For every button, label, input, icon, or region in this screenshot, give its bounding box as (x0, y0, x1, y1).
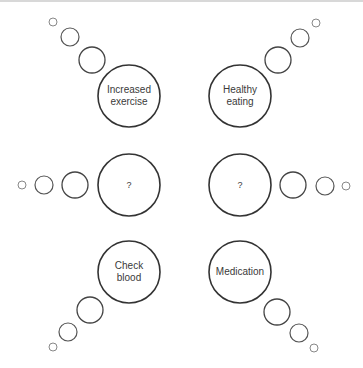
trail-bubble-large (280, 172, 306, 198)
trail-bubble-large (77, 297, 103, 323)
trail-bubble-medium (291, 29, 309, 47)
label-line-2: exercise (98, 96, 160, 108)
bubble-label-healthy-eating: Healthy eating (209, 84, 271, 108)
label-line-1: ? (98, 179, 160, 191)
label-line-1: Medication (209, 266, 271, 278)
bubble-label-increased-exercise: Increased exercise (98, 84, 160, 108)
trail-bubble-medium (35, 176, 53, 194)
bubble-group-medication (209, 241, 318, 352)
bubble-diagram (0, 0, 363, 368)
label-line-1: ? (209, 179, 271, 191)
label-line-1: Healthy (209, 84, 271, 96)
trail-bubble-large (265, 47, 291, 73)
bubble-label-check-blood: Check blood (98, 260, 160, 284)
trail-bubble-small (310, 344, 318, 352)
trail-bubble-large (79, 47, 105, 73)
bubble-label-unknown-right: ? (209, 179, 271, 191)
bubble-label-medication: Medication (209, 266, 271, 278)
label-line-1: Increased (98, 84, 160, 96)
bubble-label-unknown-left: ? (98, 179, 160, 191)
bubble-group-healthy-eating (209, 19, 320, 127)
trail-bubble-large (264, 299, 290, 325)
label-line-2: blood (98, 272, 160, 284)
trail-bubble-small (342, 182, 350, 190)
trail-bubble-medium (61, 28, 79, 46)
label-line-1: Check (98, 260, 160, 272)
bubble-group-increased-exercise (49, 18, 160, 127)
trail-bubble-medium (316, 177, 334, 195)
trail-bubble-medium (290, 324, 308, 342)
trail-bubble-small (49, 18, 57, 26)
trail-bubble-small (312, 19, 320, 27)
trail-bubble-medium (59, 323, 77, 341)
trail-bubble-small (18, 181, 26, 189)
trail-bubble-large (62, 172, 88, 198)
bubble-group-check-blood (49, 241, 160, 351)
label-line-2: eating (209, 96, 271, 108)
trail-bubble-small (49, 343, 57, 351)
